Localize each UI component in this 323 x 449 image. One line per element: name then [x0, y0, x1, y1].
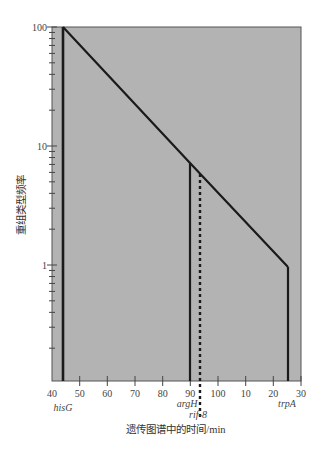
- x-tick-50: 50: [75, 388, 85, 399]
- x-axis-title: 遗传图谱中的时间/min: [126, 423, 226, 435]
- x-tick-80: 80: [158, 388, 168, 399]
- y-tick-10: 10: [37, 141, 47, 152]
- rif8-label: rif-8: [189, 409, 207, 420]
- argH-label: argH: [177, 398, 199, 409]
- x-tick-60: 60: [102, 388, 112, 399]
- y-tick-100: 100: [32, 22, 47, 33]
- x-tick-70: 70: [130, 388, 140, 399]
- y-tick-1: 1: [42, 260, 47, 271]
- x-tick-130: 30: [296, 388, 306, 399]
- x-tick-40: 40: [47, 388, 57, 399]
- plot-area: [52, 27, 301, 381]
- recombination-frequency-chart: 100 10 1 40 50 60 70 80 90 100 10 20 30 …: [0, 0, 323, 449]
- x-tick-120: 20: [268, 388, 278, 399]
- y-axis-title: 重组类型频率: [15, 175, 27, 235]
- x-tick-110: 10: [241, 388, 251, 399]
- hisG-label: hisG: [54, 402, 73, 413]
- trpA-label: trpA: [278, 398, 297, 409]
- x-tick-100: 100: [211, 388, 226, 399]
